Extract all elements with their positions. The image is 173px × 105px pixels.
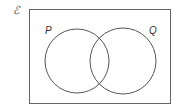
set-q-label: Q	[149, 25, 157, 36]
set-p-label: P	[45, 25, 52, 36]
universal-set-label: ℰ	[13, 4, 20, 17]
set-q-circle	[90, 28, 156, 94]
venn-diagram	[0, 0, 173, 105]
universal-set-rectangle	[30, 10, 171, 104]
